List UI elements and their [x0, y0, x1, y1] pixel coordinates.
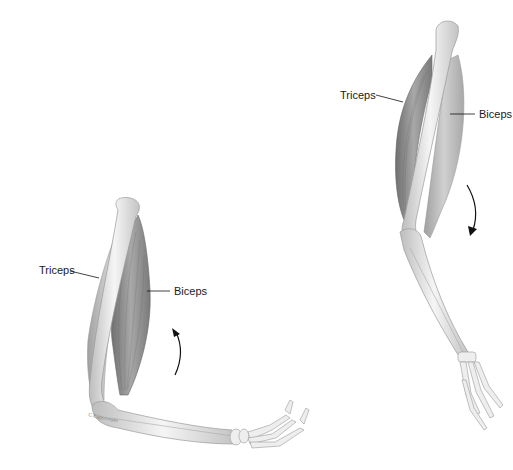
flexed-arm: C.Eggemeyer [70, 198, 309, 449]
extension-arrow-icon [467, 185, 476, 230]
biceps-label-flexed: Biceps [174, 285, 207, 297]
biceps-label-extended: Biceps [479, 108, 512, 120]
extended-arm [376, 21, 503, 430]
flexion-arrow-icon [175, 332, 180, 375]
arm-muscle-diagram: C.Eggemeyer [0, 0, 513, 470]
hand-left [230, 400, 309, 448]
triceps-label-flexed: Triceps [39, 264, 75, 276]
triceps-label-extended: Triceps [340, 89, 376, 101]
hand-right [458, 352, 503, 430]
forearm-left [92, 401, 234, 444]
